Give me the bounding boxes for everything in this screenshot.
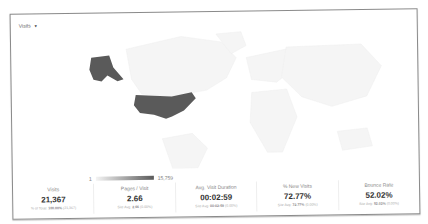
world-map[interactable] xyxy=(31,25,403,170)
metric-visits[interactable]: Visits 21,367 % of Total: 100.00% (21,36… xyxy=(13,184,94,215)
map-region-africa xyxy=(250,89,298,153)
metric-value: 2.66 xyxy=(127,194,143,203)
metric-new-visits[interactable]: % New Visits 72.77% Site Avg: 72.77% (0.… xyxy=(256,180,338,211)
metric-value: 52.02% xyxy=(365,191,392,200)
map-region-united-states xyxy=(134,92,196,119)
metric-value: 00:02:59 xyxy=(200,193,232,202)
map-region-south-america xyxy=(162,133,207,169)
map-region-australia xyxy=(337,128,372,150)
metric-label: Avg. Visit Duration xyxy=(196,184,237,191)
metrics-summary: Visits 21,367 % of Total: 100.00% (21,36… xyxy=(13,179,419,215)
metric-selector-dropdown[interactable]: Visits ▼ xyxy=(19,22,38,28)
metric-avg-visit-duration[interactable]: Avg. Visit Duration 00:02:59 Site Avg: 0… xyxy=(175,181,257,212)
metric-bounce-rate[interactable]: Bounce Rate 52.02% Site Avg: 52.02% (0.0… xyxy=(338,179,420,210)
legend-min: 1 xyxy=(89,176,92,182)
map-region-canada xyxy=(126,36,237,98)
caret-down-icon: ▼ xyxy=(34,23,38,28)
metric-label: Visits xyxy=(47,186,59,192)
metric-value: 72.77% xyxy=(284,192,311,201)
geo-map-card: Visits ▼ 1 15,759 Visits 21,367 % of Tot… xyxy=(10,8,421,220)
legend-max: 15,759 xyxy=(158,175,173,181)
metric-subtext: Site Avg: 2.66 (0.00%) xyxy=(117,205,152,209)
metric-selector-label: Visits xyxy=(19,23,31,29)
metric-subtext: Site Avg: 72.77% (0.00%) xyxy=(278,203,318,208)
metric-subtext: Site Avg: 00:02:59 (0.00%) xyxy=(195,204,237,209)
metric-subtext: Site Avg: 52.02% (0.00%) xyxy=(359,201,399,206)
map-legend: 1 15,759 xyxy=(89,175,173,182)
metric-label: Bounce Rate xyxy=(364,182,393,188)
metric-pages-per-visit[interactable]: Pages / Visit 2.66 Site Avg: 2.66 (0.00%… xyxy=(93,183,175,214)
metric-label: % New Visits xyxy=(283,183,312,189)
map-region-alaska xyxy=(89,55,123,81)
metric-value: 21,367 xyxy=(41,195,66,204)
metric-subtext: % of Total: 100.00% (21,367) xyxy=(31,206,76,211)
metric-label: Pages / Visit xyxy=(121,185,149,191)
legend-gradient-bar xyxy=(96,176,154,181)
map-region-asia xyxy=(281,44,382,107)
